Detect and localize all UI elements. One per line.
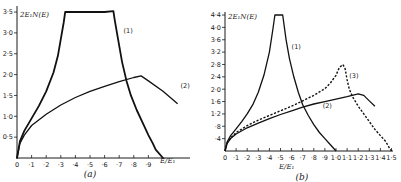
x-tick-label: 1·2 [353,154,363,162]
chart-panel-b: ·4·81·21·62·02·42·83·23·64·04·40·1·2·3·4… [211,11,397,182]
x-tick-label: ·4 [72,161,78,169]
y-tick-label: 2·0 [3,71,13,79]
y-tick-label: ·4 [215,135,221,143]
y-tick-label: 3·5 [3,8,13,16]
curve-annotation: (2) [181,82,190,90]
x-tick-label: ·8 [131,161,137,169]
y-tick-label: 1·5 [3,92,13,100]
x-axis-label: E/E₁ [159,157,176,165]
figure: 0·51·01·52·02·53·03·50·1·2·3·4·5·6·7·8·9… [0,0,401,182]
x-tick-label: ·1 [28,161,34,169]
x-tick-label: ·7 [300,154,306,162]
x-tick-label: 0 [223,154,227,162]
y-tick-label: ·8 [215,123,221,131]
y-axis-label: 2E₁N(E) [19,11,49,19]
x-tick-label: ·4 [266,154,272,162]
series-line-1 [17,11,163,158]
x-tick-label: ·5 [87,161,93,169]
x-tick-label: 1·0 [331,154,341,162]
x-tick-label: 1·4 [375,154,385,162]
x-tick-label: 1·3 [364,154,374,162]
y-tick-label: 2·0 [211,86,221,94]
y-tick-label: 1·2 [211,110,221,118]
x-tick-label: ·5 [277,154,283,162]
panel-label: (b) [296,172,309,182]
x-tick-label: ·3 [255,154,261,162]
panel-label: (a) [84,169,97,179]
x-tick-label: ·7 [116,161,122,169]
x-tick-label: ·1 [233,154,239,162]
x-tick-label: 1·5 [386,154,396,162]
x-tick-label: ·2 [244,154,250,162]
y-tick-label: 4·4 [211,11,221,19]
y-tick-label: 3·0 [3,29,13,37]
curve-annotation: (3) [349,72,358,80]
y-tick-label: 3·2 [211,48,221,56]
y-tick-label: 1·6 [211,98,221,106]
curve-annotation: (2) [323,102,332,110]
x-tick-label: ·8 [311,154,317,162]
y-axis-label: 2E₁N(E) [227,13,257,21]
y-tick-label: 1·0 [3,113,13,121]
x-tick-label: 0 [15,161,19,169]
y-tick-label: 3·6 [211,36,221,44]
chart-panel-a: 0·51·01·52·02·53·03·50·1·2·3·4·5·6·7·8·9… [3,6,190,179]
x-tick-label: ·9 [322,154,328,162]
series-line-3 [225,65,392,152]
y-tick-label: 0·5 [3,133,13,141]
curve-annotation: (1) [124,27,133,35]
x-axis-label: E/E₁ [278,163,295,171]
x-tick-label: ·3 [58,161,64,169]
y-tick-label: 2·8 [211,61,221,69]
curve-annotation: (1) [292,43,301,51]
x-tick-label: 1·1 [342,154,352,162]
y-tick-label: 2·5 [3,50,13,58]
y-tick-label: 4·0 [211,24,221,32]
x-tick-label: ·6 [101,161,107,169]
x-tick-label: ·9 [145,161,151,169]
x-tick-label: ·6 [288,154,294,162]
y-tick-label: 2·4 [211,73,221,81]
x-tick-label: ·2 [43,161,49,169]
